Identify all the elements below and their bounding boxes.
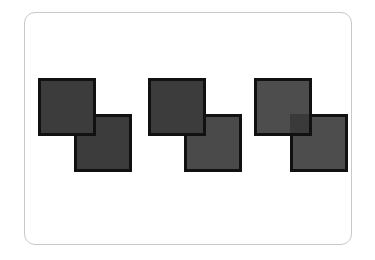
square-pair-3 [254, 78, 348, 172]
square-pair-1 [38, 78, 132, 172]
upper-left-square-3-outline [254, 78, 312, 136]
figure-canvas [0, 0, 375, 260]
upper-left-square-2 [148, 78, 206, 136]
square-pair-2 [148, 78, 242, 172]
upper-left-square-1 [38, 78, 96, 136]
